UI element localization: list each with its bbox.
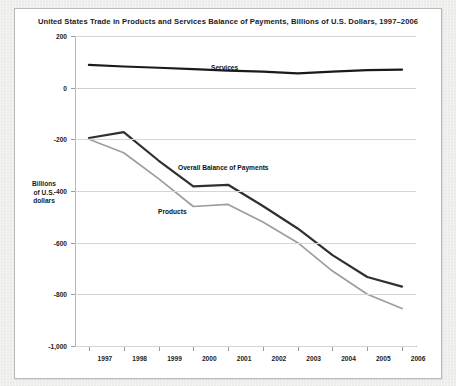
- y-axis-tick-label: -600: [19, 239, 67, 246]
- gridline: [75, 294, 416, 295]
- gridline: [75, 36, 416, 37]
- series-label-services: Services: [211, 64, 238, 71]
- series-label-overall-balance-of-payments: Overall Balance of Payments: [178, 164, 269, 171]
- y-axis-tick-label: -400: [19, 188, 67, 195]
- chart-title: United States Trade in Products and Serv…: [15, 17, 441, 26]
- y-axis-tick-label: 200: [19, 33, 67, 40]
- x-axis-tick-label: 1998: [123, 355, 157, 362]
- x-axis-tick-label: 2006: [401, 355, 435, 362]
- y-axis-title-line-3: dollars: [21, 197, 67, 206]
- series-line-services: [89, 65, 402, 74]
- y-axis-tick-label: -800: [19, 291, 67, 298]
- gridline: [75, 191, 416, 192]
- plot-area: [75, 36, 416, 346]
- gridline: [75, 243, 416, 244]
- x-axis-tick-label: 2000: [192, 355, 226, 362]
- chart-card: United States Trade in Products and Serv…: [14, 8, 442, 379]
- y-axis-tick-label: -1,000: [19, 343, 67, 350]
- gridline: [75, 88, 416, 89]
- x-axis-tick-label: 1997: [88, 355, 122, 362]
- series-label-products: Products: [158, 208, 187, 215]
- x-axis-tick-label: 2002: [262, 355, 296, 362]
- x-axis-tick-label: 2001: [227, 355, 261, 362]
- y-axis-tick-label: -200: [19, 136, 67, 143]
- series-line-overall-balance-of-payments: [89, 132, 402, 286]
- y-axis-tick-label: 0: [19, 84, 67, 91]
- gridline: [75, 346, 416, 347]
- x-axis-tick-label: 2005: [366, 355, 400, 362]
- gridline: [75, 139, 416, 140]
- x-axis-tick-label: 1999: [158, 355, 192, 362]
- x-axis-tick-label: 2003: [297, 355, 331, 362]
- x-axis-tick-label: 2004: [331, 355, 365, 362]
